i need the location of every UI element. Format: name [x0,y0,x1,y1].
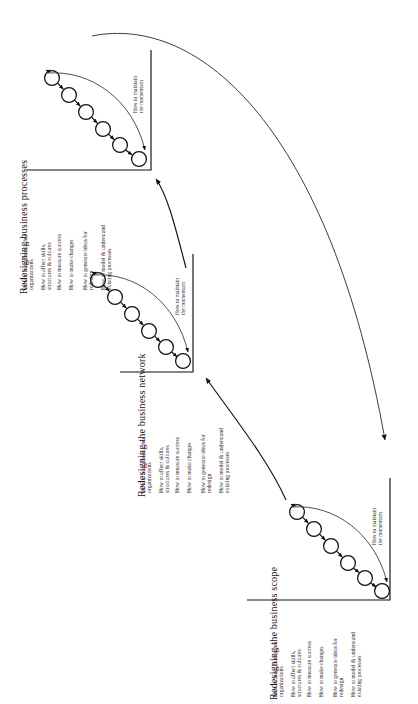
process-node [132,152,147,167]
axis-label-line1: How to measure success [306,641,312,697]
axis-label-measure-success-2: How to measure success [174,437,180,493]
process-node [159,340,174,355]
axis-label-make-changes-2: How to make changes [186,442,192,493]
axis-label-measure-success-1: How to measure success [56,234,62,290]
momentum-feedback-arc-1 [48,73,146,150]
diagram-canvas: Redesigning business processes How to ma… [0,0,418,704]
axis-label-line1: How to make changes [68,239,74,290]
process-node [176,354,191,369]
stage-connector-network-to-processes [156,179,186,268]
axis-label-line1: How to measure success [56,234,62,290]
diagram-vector-layer [0,0,418,704]
process-node [62,88,77,103]
stage-business-scope-graphic [206,378,390,600]
axis-label-make-changes-3: How to make changes [318,646,324,697]
momentum-label-1: How to maintain the momentum [133,76,145,113]
process-node [307,522,322,537]
axis-label-generate-ideas-2: How to generate ideas for redesign [200,434,212,493]
axis-label-affect-skills-3: How to affect skills, structures & cultu… [290,649,302,697]
axis-label-line1: How to make changes [318,646,324,697]
process-node [79,105,94,120]
axis-label-line1: How to make changes [186,442,192,493]
process-node [324,539,339,554]
axis-label-line2: organizations [28,234,34,290]
process-node [375,584,390,599]
axis-label-line2: redesign [206,434,212,493]
axis-label-generate-ideas-1: How to generate ideas for redesign [82,231,94,290]
axis-label-measure-success-3: How to measure success [306,641,312,697]
axis-label-line1: How to measure success [174,437,180,493]
axis-label-model-understand-1: How to model & understand existing proce… [100,225,112,290]
axis-label-line2: structures & cultures [296,649,302,697]
axis-label-line2: existing processes [224,428,230,493]
axis-label-generate-ideas-3: How to generate ideas for redesign [332,638,344,697]
axis-label-learn-from-others-1: How to learn from other organizations [22,234,34,290]
axis-label-line2: existing processes [356,632,362,697]
process-node [108,290,123,305]
momentum-label-3: How to maintain the momentum [372,508,384,545]
axis-label-make-changes-1: How to make changes [68,239,74,290]
axis-label-line2: redesign [338,638,344,697]
axis-label-model-understand-3: How to model & understand existing proce… [350,632,362,697]
axis-label-model-understand-2: How to model & understand existing proce… [218,428,230,493]
axis-label-line2: structures & cultures [46,242,52,290]
axis-label-line2: organizations [278,641,284,697]
process-node [341,556,356,571]
axis-label-affect-skills-2: How to affect skills, structures & cultu… [158,445,170,493]
axis-label-line2: structures & cultures [164,445,170,493]
momentum-label-line2: the momentum [139,76,145,113]
process-node [142,324,157,339]
axis-label-learn-from-others-3: How to learn from other organizations [272,641,284,697]
process-node [125,307,140,322]
axis-label-line2: organizations [146,437,152,493]
momentum-label-line2: the momentum [181,278,187,315]
momentum-label-line2: the momentum [378,508,384,545]
process-node [96,122,111,137]
axis-label-learn-from-others-2: How to learn from other organizations [140,437,152,493]
momentum-label-2: How to maintain the momentum [175,278,187,315]
process-node [113,138,128,153]
axis-label-line2: redesign [88,231,94,290]
axis-label-line2: existing processes [106,225,112,290]
process-node [358,571,373,586]
axis-label-affect-skills-1: How to affect skills, structures & cultu… [40,242,52,290]
